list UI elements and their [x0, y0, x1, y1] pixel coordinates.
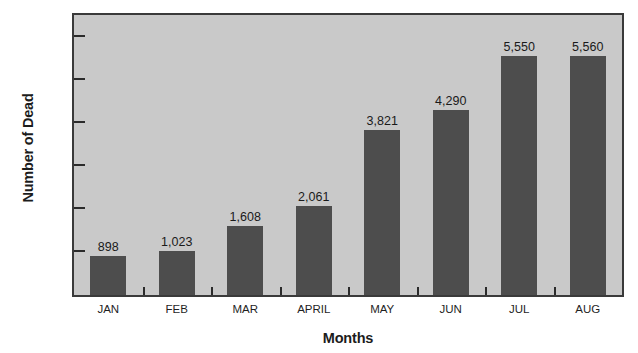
y-tick-mark: [74, 164, 85, 166]
x-tick-mark: [211, 287, 213, 295]
bar-value-label: 1,608: [205, 210, 285, 224]
x-tick-mark: [280, 287, 282, 295]
bar: [570, 56, 606, 296]
bar: [433, 110, 469, 295]
bar: [296, 206, 332, 295]
bar: [90, 256, 126, 295]
bar-value-label: 4,290: [411, 94, 491, 108]
bar-value-label: 1,023: [137, 235, 217, 249]
y-tick-mark: [74, 35, 85, 37]
x-tick-mark: [417, 287, 419, 295]
x-tick-mark: [485, 287, 487, 295]
bar: [364, 130, 400, 295]
x-axis-title: Months: [72, 330, 624, 346]
bar-value-label: 3,821: [342, 114, 422, 128]
plot-area: 8981,0231,6082,0613,8214,2905,5505,560: [72, 13, 624, 297]
x-tick-mark: [554, 287, 556, 295]
bar-value-label: 5,560: [548, 40, 628, 54]
x-tick-mark: [143, 287, 145, 295]
x-tick-mark: [348, 287, 350, 295]
y-axis-title: Number of Dead: [20, 58, 36, 238]
bar-chart-figure: Death Rate in the Warsaw Ghetto, January…: [0, 0, 638, 353]
y-tick-mark: [74, 78, 85, 80]
y-tick-mark: [74, 207, 85, 209]
bar: [227, 226, 263, 295]
bar: [501, 56, 537, 295]
x-tick-label: AUG: [548, 303, 628, 315]
bar-value-label: 2,061: [274, 190, 354, 204]
y-tick-mark: [74, 121, 85, 123]
bar: [159, 251, 195, 295]
